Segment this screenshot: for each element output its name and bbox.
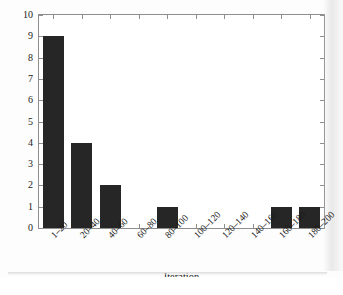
y-tick-mark xyxy=(320,185,324,186)
y-tick-mark xyxy=(320,143,324,144)
x-axis-title: Iteration xyxy=(38,271,325,283)
y-tick-mark xyxy=(320,36,324,37)
x-tick-mark xyxy=(82,15,83,19)
y-tick-mark xyxy=(39,15,43,16)
y-tick-label: 5 xyxy=(7,117,33,127)
x-tick-mark xyxy=(281,15,282,19)
y-tick-label: 10 xyxy=(7,10,33,20)
plot-area xyxy=(38,14,325,229)
y-tick-label: 7 xyxy=(7,74,33,84)
y-tick-label: 6 xyxy=(7,95,33,105)
y-tick-mark xyxy=(320,164,324,165)
y-tick-mark xyxy=(320,122,324,123)
y-tick-label: 2 xyxy=(7,180,33,190)
y-tick-mark xyxy=(320,79,324,80)
y-tick-label: 1 xyxy=(7,202,33,212)
y-tick-mark xyxy=(39,228,43,229)
x-tick-mark xyxy=(53,15,54,19)
y-tick-label: 8 xyxy=(7,53,33,63)
x-tick-mark xyxy=(110,15,111,19)
chart-figure: Random perturbation Iteration 0123456789… xyxy=(0,0,343,295)
y-tick-mark xyxy=(320,100,324,101)
x-tick-mark xyxy=(167,15,168,19)
y-tick-label: 0 xyxy=(7,223,33,233)
y-tick-label: 9 xyxy=(7,31,33,41)
x-tick-mark xyxy=(310,15,311,19)
y-tick-mark xyxy=(320,58,324,59)
scan-shadow-right xyxy=(323,0,343,271)
x-tick-mark xyxy=(253,15,254,19)
x-tick-mark xyxy=(196,15,197,19)
bar xyxy=(71,143,92,228)
x-tick-mark xyxy=(139,15,140,19)
bar xyxy=(43,36,64,228)
x-tick-mark xyxy=(224,15,225,19)
y-tick-label: 3 xyxy=(7,159,33,169)
y-tick-mark xyxy=(320,15,324,16)
y-tick-label: 4 xyxy=(7,138,33,148)
y-tick-mark xyxy=(320,207,324,208)
